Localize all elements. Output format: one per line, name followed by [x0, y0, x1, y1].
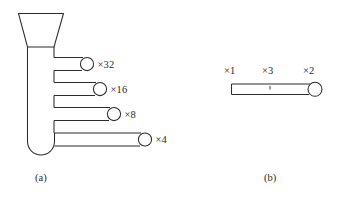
- apparatus-diagram: ×32 ×16 ×8 ×4 (a) ×1 ×3 ×2 (b): [0, 0, 342, 199]
- channel-b-bulb: [308, 82, 322, 96]
- branch-1-bulb: [80, 57, 93, 70]
- diagram-background: [0, 0, 342, 199]
- branch-3-label: ×8: [125, 109, 137, 120]
- branch-4-label: ×4: [156, 134, 168, 145]
- branch-4-bulb: [138, 133, 151, 146]
- channel-b-label-center: ×3: [262, 65, 274, 76]
- panel-b-caption: (b): [264, 172, 277, 184]
- channel-b-label-right: ×2: [303, 65, 315, 76]
- panel-a-caption: (a): [35, 172, 47, 184]
- branch-3-bulb: [107, 107, 120, 120]
- branch-2-bulb: [93, 82, 106, 95]
- branch-1-label: ×32: [98, 59, 115, 70]
- branch-2-label: ×16: [111, 84, 128, 95]
- channel-b-label-left: ×1: [224, 65, 236, 76]
